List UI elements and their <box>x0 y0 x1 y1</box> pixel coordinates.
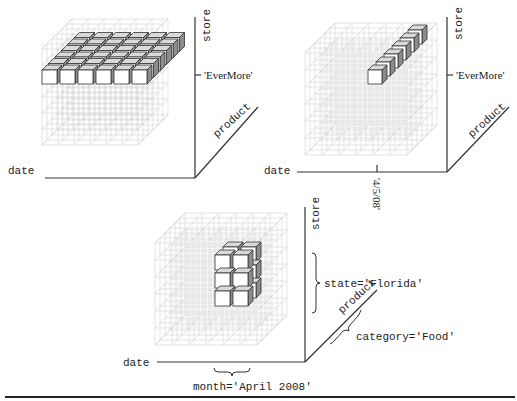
figure-canvas: date store product 'EverMore' date store… <box>0 0 517 401</box>
date-axis-label: date <box>264 165 290 177</box>
cell-front <box>233 291 248 306</box>
cell-front <box>114 70 129 84</box>
product-axis-label: product <box>211 100 253 140</box>
cell-front <box>132 70 147 84</box>
month-label: month='April 2008' <box>193 381 312 393</box>
cell-front <box>96 70 111 84</box>
product-axis-label: product <box>466 100 508 140</box>
highlighted-cells <box>215 242 261 306</box>
cell-front <box>42 70 57 84</box>
panel-subcube: date store product state='Florida' categ… <box>123 197 455 393</box>
bottom-rule <box>5 396 515 398</box>
month-brace <box>214 368 250 376</box>
panel-row: date store product 'EverMore' '4/5/08' <box>264 7 509 210</box>
state-brace <box>312 253 320 313</box>
olap-cube-figure: date store product 'EverMore' date store… <box>0 0 517 401</box>
store-value-label: 'EverMore' <box>456 69 505 81</box>
date-value-label: '4/5/08' <box>371 178 383 210</box>
category-label: category='Food' <box>356 331 455 343</box>
cell-front <box>368 70 382 84</box>
date-axis-label: date <box>123 357 149 369</box>
store-axis-label: store <box>453 7 465 40</box>
store-value-label: 'EverMore' <box>204 69 253 81</box>
store-axis-label: store <box>310 197 322 230</box>
store-axis-label: store <box>201 9 213 42</box>
panel-slice: date store product 'EverMore' <box>8 9 258 178</box>
cell-front <box>215 291 230 306</box>
state-label: state='Florida' <box>324 278 423 290</box>
date-axis-label: date <box>8 165 34 177</box>
cell-front <box>60 70 75 84</box>
cell-front <box>78 70 93 84</box>
highlighted-cells <box>368 25 427 84</box>
